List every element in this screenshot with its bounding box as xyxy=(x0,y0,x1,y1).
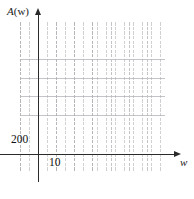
y-axis-label-variable: A xyxy=(7,5,14,17)
y-axis-line xyxy=(38,14,40,182)
y-axis-arrow-icon xyxy=(35,8,41,15)
x-axis-tick-label-10: 10 xyxy=(49,157,61,169)
y-axis-tick-label-200: 200 xyxy=(11,134,28,146)
y-axis-label: A(w) xyxy=(7,6,29,17)
y-axis-label-argument: (w) xyxy=(14,5,29,17)
x-axis-label: w xyxy=(180,157,187,168)
graph-figure: A(w) w 200 10 xyxy=(0,0,194,199)
grid-area xyxy=(20,21,165,172)
x-axis-line xyxy=(0,154,178,156)
